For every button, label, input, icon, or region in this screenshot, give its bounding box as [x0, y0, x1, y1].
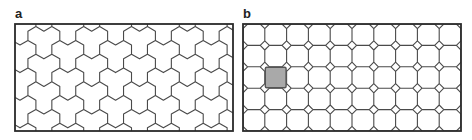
octagon-edges — [243, 24, 461, 131]
octagon-square-tiling-panel — [0, 0, 472, 140]
highlighted-cell — [265, 67, 286, 87]
